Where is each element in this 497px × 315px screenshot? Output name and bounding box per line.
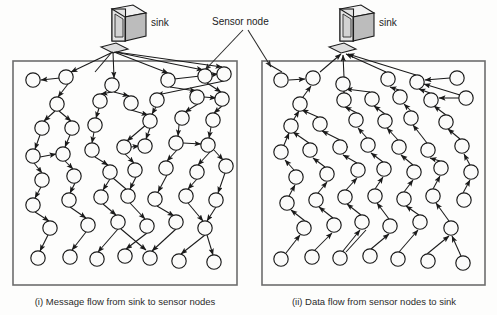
sensor-node (26, 149, 40, 163)
sensor-node (59, 70, 73, 84)
sensor-node (143, 114, 157, 128)
sensor-node (439, 115, 453, 129)
sensor-node (206, 113, 220, 127)
sensor-node (128, 163, 142, 177)
sensor-node (190, 165, 204, 179)
sensor-node (274, 252, 288, 266)
sensor-node (333, 140, 347, 154)
left-nodes (26, 67, 233, 269)
sensor-node (90, 252, 104, 266)
sensor-node (143, 251, 157, 265)
sensor-node (421, 254, 435, 268)
sensor-node (26, 73, 40, 87)
sensor-node (284, 119, 298, 133)
sensor-node (219, 159, 233, 173)
sensor-node (337, 93, 351, 107)
sensor-node (434, 161, 448, 175)
sensor-node (198, 221, 212, 235)
sensor-node (207, 255, 221, 269)
sensor-node (124, 96, 138, 110)
sensor-node (217, 67, 231, 81)
sensor-node (336, 77, 350, 91)
sink-label-left: sink (151, 17, 170, 28)
sensor-node (306, 71, 320, 85)
sensor-node (361, 138, 375, 152)
sensor-node (138, 139, 152, 153)
sensor-node (198, 69, 212, 83)
sensor-node (274, 145, 288, 159)
sensor-node (67, 169, 81, 183)
sensor-node (407, 165, 421, 179)
sensor-node (274, 73, 288, 87)
sensor-node (105, 78, 119, 92)
sink-icon-left (101, 5, 146, 53)
sensor-node (43, 221, 57, 235)
sensor-node (289, 170, 303, 184)
sensor-node (88, 118, 102, 132)
sensor-node (450, 71, 464, 85)
sensor-node (215, 92, 229, 106)
sensor-node (93, 94, 107, 108)
sensor-node (368, 189, 382, 203)
sensor-node (175, 111, 189, 125)
sensor-node-leader-right (248, 30, 271, 67)
sensor-node (159, 161, 173, 175)
sensor-node (309, 193, 323, 207)
sensor-node (35, 121, 49, 135)
sensor-node (355, 215, 369, 229)
sensor-node (349, 113, 363, 127)
sensor-node (365, 92, 379, 106)
sensor-node (169, 215, 183, 229)
sensor-node (378, 114, 392, 128)
sensor-node (280, 196, 294, 210)
sensor-node (303, 143, 317, 157)
sensor-node (351, 163, 365, 177)
sensor-node (179, 189, 193, 203)
sensor-node (161, 73, 175, 87)
sensor-node (297, 221, 311, 235)
sensor-node (393, 90, 407, 104)
sensor-node (459, 91, 473, 105)
sensor-node (397, 192, 411, 206)
sensor-node (313, 117, 327, 131)
sensor-node (81, 218, 95, 232)
sink-label-right: sink (379, 17, 398, 28)
sensor-node (333, 251, 347, 265)
sensor-node (444, 221, 458, 235)
sensor-node (464, 165, 478, 179)
sensor-node (31, 251, 45, 265)
sensor-node (111, 215, 125, 229)
network-diagram: sink sink Sensor node (0, 0, 497, 315)
sensor-node (56, 147, 70, 161)
sensor-node (421, 143, 435, 157)
sensor-node (404, 111, 418, 125)
sensor-node (35, 173, 49, 187)
sensor-node (50, 97, 64, 111)
sensor-node (94, 190, 108, 204)
sensor-node (338, 190, 352, 204)
sensor-node (383, 219, 397, 233)
sensor-node (413, 215, 427, 229)
caption-right: (ii) Data flow from sensor nodes to sink (292, 296, 456, 307)
sensor-node (455, 139, 469, 153)
sensor-node (327, 218, 341, 232)
sensor-node (363, 249, 377, 263)
figure-root: sink sink Sensor node (0, 0, 497, 315)
caption-left: (i) Message flow from sink to sensor nod… (35, 296, 216, 307)
sensor-node (118, 249, 132, 263)
sensor-node (26, 198, 40, 212)
sensor-node (426, 189, 440, 203)
sensor-node (320, 167, 334, 181)
sensor-node (293, 97, 307, 111)
sensor-node (121, 189, 135, 203)
sensor-node (172, 254, 186, 268)
sink-base-right (329, 43, 356, 53)
sensor-node (117, 140, 131, 154)
sensor-node-label: Sensor node (212, 16, 269, 27)
sensor-node (377, 162, 391, 176)
sensor-node (63, 250, 77, 264)
sensor-node (190, 90, 204, 104)
sensor-node (209, 193, 223, 207)
sensor-node (140, 219, 154, 233)
sensor-node (410, 75, 424, 89)
